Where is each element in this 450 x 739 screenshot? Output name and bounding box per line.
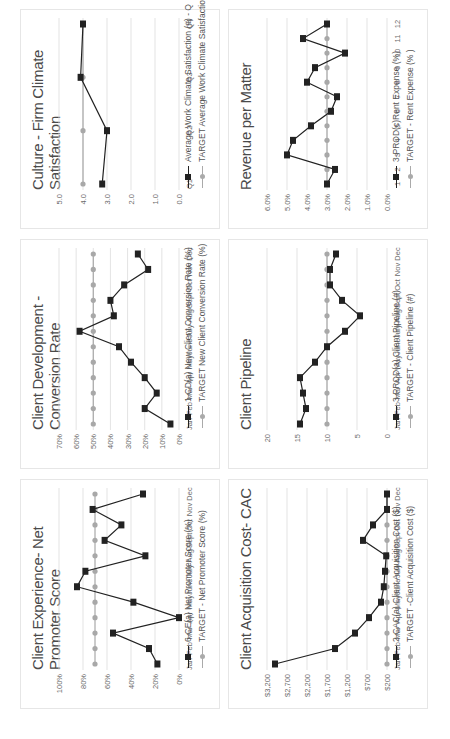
- panel-title: Revenue per Matter: [237, 10, 254, 228]
- legend-item-actual: 6-CE(a) Net Promoter Score (%): [181, 510, 195, 668]
- actual-point: [145, 266, 151, 273]
- actual-point: [128, 359, 134, 366]
- target-point: [92, 491, 97, 496]
- y-tick-label: 5: [353, 434, 362, 438]
- y-tick-label: 3.0: [103, 194, 112, 204]
- y-tick-label: 0%: [175, 434, 184, 445]
- actual-point: [333, 251, 339, 258]
- actual-point: [142, 405, 148, 412]
- legend-item-actual: Average Work Climate Satisfaction (#) - …: [181, 0, 195, 188]
- target-point: [324, 298, 329, 303]
- actual-point: [378, 599, 384, 606]
- y-tick-label: $2,700: [283, 674, 292, 697]
- circle-marker-icon: [197, 406, 207, 428]
- legend: Average Work Climate Satisfaction (#) - …: [181, 0, 209, 188]
- target-point: [91, 251, 96, 256]
- legend-item-target: TARGET - Net Promoter Score (%): [195, 510, 209, 668]
- y-tick-label: 10%: [158, 434, 167, 449]
- legend: 2-CAC(a) Client Acquisition Cost ($) TAR…: [389, 506, 417, 668]
- target-point: [92, 600, 97, 605]
- actual-point: [102, 537, 108, 544]
- y-tick-label: $200: [383, 674, 392, 691]
- actual-line: [77, 494, 179, 664]
- actual-point: [111, 312, 117, 319]
- actual-point: [324, 181, 330, 188]
- target-point: [324, 152, 329, 157]
- panel-title: Client Pipeline: [237, 240, 254, 468]
- line-chart-pipeline: 05101520JanFebMarAprMayJuneJulyAugSeptOc…: [259, 238, 409, 468]
- target-point: [324, 138, 329, 143]
- actual-point: [303, 405, 309, 412]
- legend-item-target: TARGET Average Work Climate Satisfaction…: [195, 0, 209, 188]
- y-tick-label: 40%: [106, 434, 115, 449]
- square-marker-icon: [183, 166, 193, 188]
- target-point: [91, 313, 96, 318]
- target-point: [324, 406, 329, 411]
- target-point: [91, 298, 96, 303]
- line-chart-culture: 0.01.02.03.04.05.0Q1Q2Q3Q4: [51, 8, 201, 228]
- actual-point: [130, 599, 136, 606]
- target-point: [91, 406, 96, 411]
- kpi-dashboard-page: Client Experience- Net Promoter Score 0%…: [0, 0, 450, 739]
- actual-point: [167, 421, 173, 428]
- target-point: [324, 251, 329, 256]
- target-point: [324, 421, 329, 426]
- actual-point: [77, 328, 83, 335]
- line-chart-revenue: 0.0%1.0%2.0%3.0%4.0%5.0%6.0%123456789101…: [259, 8, 409, 228]
- y-tick-label: 15: [293, 434, 302, 442]
- y-tick-label: 0%: [175, 674, 184, 685]
- target-point: [91, 360, 96, 365]
- actual-point: [107, 297, 113, 304]
- legend-item-target: TARGET - Client Pipeline (#): [403, 290, 417, 428]
- actual-point: [332, 645, 338, 652]
- y-tick-label: 6.0%: [263, 194, 272, 211]
- y-tick-label: 80%: [79, 674, 88, 689]
- line-chart-conversion: 0%10%20%30%40%50%60%70%JanFebMarAprMayJu…: [51, 238, 201, 468]
- actual-point: [381, 583, 387, 590]
- y-tick-label: 4.0%: [303, 194, 312, 211]
- actual-point: [312, 359, 318, 366]
- target-point: [91, 329, 96, 334]
- legend-item-target: TARGET New Client Conversion Rate (%): [195, 244, 209, 428]
- actual-point: [104, 127, 110, 134]
- actual-point: [297, 374, 303, 381]
- target-point: [92, 538, 97, 543]
- actual-point: [304, 79, 310, 86]
- actual-point: [90, 506, 96, 513]
- circle-marker-icon: [197, 646, 207, 668]
- panel-revenue: Revenue per Matter 0.0%1.0%2.0%3.0%4.0%5…: [228, 9, 428, 229]
- x-tick-label: 12: [393, 20, 402, 28]
- y-tick-label: 2.0: [127, 194, 136, 204]
- x-tick-label: 11: [393, 35, 402, 43]
- y-tick-label: $700: [363, 674, 372, 691]
- y-tick-label: $3,200: [263, 674, 272, 697]
- target-point: [324, 65, 329, 70]
- actual-point: [312, 64, 318, 71]
- actual-point: [154, 661, 160, 668]
- legend-item-actual: 1-CD(a) New Client Conversion Rate (%): [181, 244, 195, 428]
- square-marker-icon: [183, 406, 193, 428]
- panel-title: Client Acquisition Cost- CAC: [237, 480, 254, 708]
- y-tick-label: 5.0: [55, 194, 64, 204]
- x-tick-label: Dec: [185, 487, 194, 501]
- target-point: [324, 329, 329, 334]
- x-tick-label: Dec: [393, 487, 402, 501]
- circle-marker-icon: [405, 406, 415, 428]
- legend: 6-CE(a) Net Promoter Score (%) TARGET - …: [181, 510, 209, 668]
- actual-point: [110, 630, 116, 637]
- actual-point: [327, 281, 333, 288]
- square-marker-icon: [391, 646, 401, 668]
- target-point: [92, 584, 97, 589]
- target-point: [91, 421, 96, 426]
- actual-point: [357, 312, 363, 319]
- y-tick-label: 1.0%: [363, 194, 372, 211]
- actual-point: [327, 266, 333, 273]
- y-tick-label: 4.0: [79, 194, 88, 204]
- circle-marker-icon: [405, 646, 415, 668]
- actual-point: [339, 297, 345, 304]
- actual-point: [116, 343, 122, 350]
- actual-point: [290, 137, 296, 144]
- target-point: [92, 553, 97, 558]
- target-point: [324, 50, 329, 55]
- y-tick-label: 0.0%: [383, 194, 392, 211]
